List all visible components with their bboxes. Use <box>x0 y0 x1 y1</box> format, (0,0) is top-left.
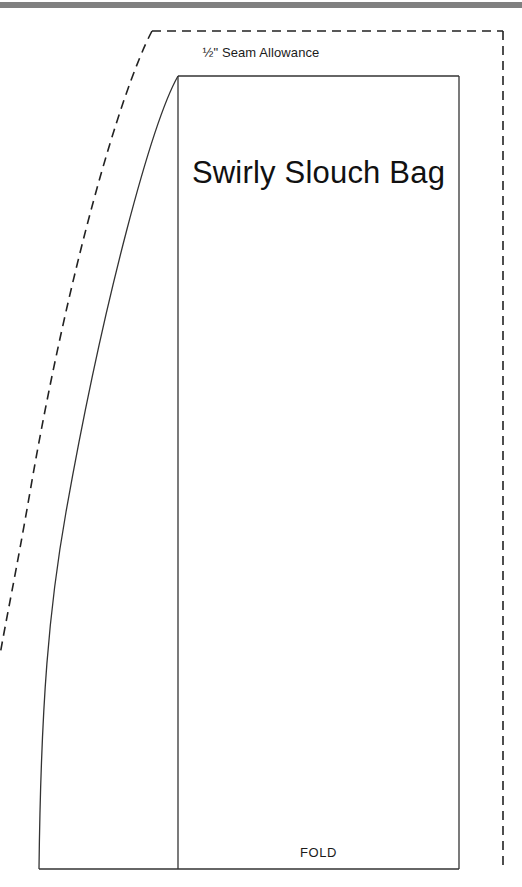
sewing-line-left-curve <box>39 76 178 869</box>
pattern-sheet: ½" Seam Allowance Swirly Slouch Bag FOLD <box>0 0 522 887</box>
seam-allowance-label: ½" Seam Allowance <box>0 45 522 60</box>
cut-line-left-curve <box>0 31 152 655</box>
page-title: Swirly Slouch Bag <box>178 155 459 191</box>
pattern-drawing <box>0 0 522 887</box>
fold-label: FOLD <box>178 845 459 860</box>
